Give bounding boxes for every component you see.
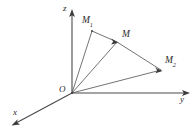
point-label-m1-base: M [82, 15, 90, 25]
vector-o-m2 [72, 70, 161, 93]
vertex-dot-origin [71, 92, 73, 94]
x-axis-arrowhead [12, 119, 21, 125]
axis-group [12, 9, 191, 125]
segment-m-m2 [117, 42, 161, 70]
point-label-m1: M1 [82, 16, 93, 27]
vector-o-m [72, 42, 117, 93]
arrowhead-at-m [111, 39, 119, 45]
diagram-canvas [0, 0, 195, 140]
point-label-m2-base: M [165, 55, 173, 65]
origin-label: O [59, 85, 66, 94]
vector-diagram-figure: z y x O M1 M M2 [0, 0, 195, 140]
vertex-dot-m1 [91, 30, 93, 32]
vector-o-m1 [72, 31, 92, 93]
z-axis-label: z [63, 4, 67, 13]
x-axis-label: x [13, 108, 17, 117]
x-axis-line [16, 93, 72, 123]
point-label-m-base: M [122, 29, 130, 39]
point-label-m: M [122, 30, 130, 41]
point-label-m2-subscript: 2 [173, 61, 176, 68]
y-axis-label: y [180, 95, 184, 104]
point-label-m1-subscript: 1 [90, 21, 93, 28]
point-label-m2: M2 [165, 56, 176, 67]
